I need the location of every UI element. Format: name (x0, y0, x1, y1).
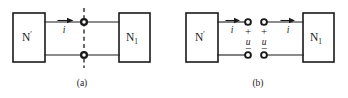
panel-b-left-current-label: i (231, 25, 234, 35)
panel-a-current-label: i (63, 25, 66, 35)
panel-a-top-terminal-node (81, 19, 87, 25)
panel-a-caption: (a) (77, 78, 88, 89)
figure-canvas: N′ N1 i (a) (0, 0, 348, 98)
panel-b: N′ N1 i i (186, 13, 334, 89)
panel-a: N′ N1 i (a) (13, 8, 150, 89)
panel-b-caption: (b) (252, 78, 263, 89)
circuit-figure: N′ N1 i (a) (0, 0, 348, 98)
panel-b-right-network-subscript: 1 (318, 37, 322, 46)
panel-b-left-plus-sign: + (245, 25, 251, 37)
panel-a-right-network-subscript: 1 (134, 37, 138, 46)
panel-a-bottom-terminal-node (81, 52, 87, 58)
panel-b-right-current-label: i (287, 25, 290, 35)
panel-b-right-minus-sign: − (261, 42, 267, 54)
panel-b-right-plus-sign: + (261, 25, 267, 37)
panel-b-left-minus-sign: − (245, 42, 251, 54)
